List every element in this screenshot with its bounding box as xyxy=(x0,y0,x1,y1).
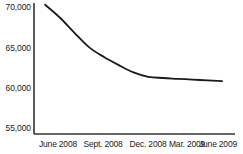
x-axis-tick-labels: June 2008Sept. 2008Dec. 2008Mar. 2009Jun… xyxy=(0,139,243,152)
x-axis-tick-label: June 2009 xyxy=(199,139,237,150)
chart-plot-area xyxy=(0,0,243,154)
y-axis-tick-label: 60,000 xyxy=(0,84,31,93)
line-chart: 70,00065,00060,00055,000 June 2008Sept. … xyxy=(0,0,243,154)
x-axis-tick-label: Sept. 2008 xyxy=(83,139,122,150)
y-axis-tick-labels: 70,00065,00060,00055,000 xyxy=(0,0,31,154)
x-axis-tick-label: Dec. 2008 xyxy=(130,139,167,150)
x-axis-tick-label: June 2008 xyxy=(39,139,77,150)
data-series-line xyxy=(45,5,222,82)
y-axis-tick-label: 70,000 xyxy=(0,3,31,12)
y-axis-tick-label: 65,000 xyxy=(0,44,31,53)
y-axis-tick-label: 55,000 xyxy=(0,124,31,133)
